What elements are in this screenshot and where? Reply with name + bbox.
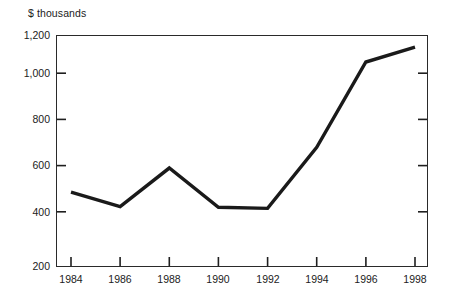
y-tick-label-1200: 1,200 bbox=[6, 30, 50, 41]
x-tick-label-1984: 1984 bbox=[48, 274, 94, 285]
x-tick-label-1988: 1988 bbox=[146, 274, 192, 285]
y-tick-label-1000: 1,000 bbox=[6, 68, 50, 79]
y-tick-label-200: 200 bbox=[6, 261, 50, 272]
x-tick-label-1992: 1992 bbox=[245, 274, 291, 285]
x-tick-label-1996: 1996 bbox=[343, 274, 389, 285]
x-tick-label-1990: 1990 bbox=[195, 274, 241, 285]
line-chart-plot bbox=[0, 0, 456, 297]
y-tick-label-400: 400 bbox=[6, 207, 50, 218]
x-tick-label-1994: 1994 bbox=[294, 274, 340, 285]
x-tick-label-1986: 1986 bbox=[97, 274, 143, 285]
chart-figure: $ thousands bbox=[0, 0, 456, 297]
plot-area-border bbox=[57, 36, 428, 267]
y-tick-label-600: 600 bbox=[6, 160, 50, 171]
y-tick-label-800: 800 bbox=[6, 114, 50, 125]
x-tick-label-1998: 1998 bbox=[392, 274, 438, 285]
